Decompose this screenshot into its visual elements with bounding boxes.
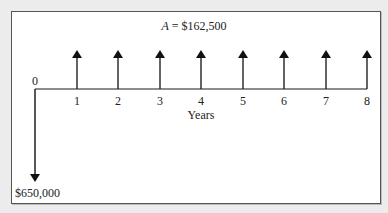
axis-label: Years [188,109,215,121]
outflow-label: $650,000 [15,187,60,199]
tick-label: 2 [115,95,121,107]
inflow-arrows [77,54,367,89]
tick-label: 8 [364,95,370,107]
tick-label: 1 [74,95,80,107]
tick-label: 4 [198,95,204,107]
tick-label: 7 [323,95,329,107]
origin-label: 0 [32,75,38,87]
tick-label: 3 [157,95,163,107]
tick-label: 5 [240,95,246,107]
cash-flow-graphic [0,0,388,213]
tick-label: 6 [281,95,287,107]
